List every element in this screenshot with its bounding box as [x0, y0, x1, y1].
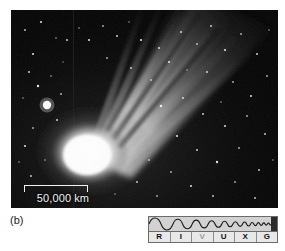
spectrum-band-labels: R I V U X G — [148, 232, 278, 243]
spectrum-band-g: G — [257, 232, 278, 242]
spectrum-band-v: V — [192, 232, 214, 242]
spectrum-wave-box — [148, 216, 278, 232]
spectrum-waveform-icon — [149, 217, 277, 231]
comet-image-canvas — [11, 10, 278, 208]
spectrum-band-u: U — [214, 232, 236, 242]
rivuxg-spectrum-indicator: R I V U X G — [148, 216, 278, 243]
spectrum-band-i: I — [171, 232, 193, 242]
comet-photograph: 50,000 km — [11, 10, 278, 208]
figure-comet-panel-b: 50,000 km (b) R I V U X G — [0, 0, 285, 251]
spectrum-band-x: X — [235, 232, 257, 242]
panel-letter-label: (b) — [10, 214, 23, 226]
spectrum-band-r: R — [149, 232, 171, 242]
film-grain — [11, 10, 278, 208]
